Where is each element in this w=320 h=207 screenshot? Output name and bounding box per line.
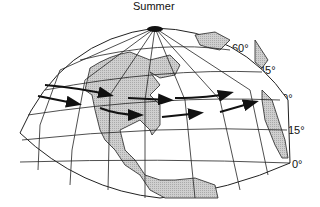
- globe-map: [0, 0, 320, 207]
- north-pole-marker: [147, 26, 163, 32]
